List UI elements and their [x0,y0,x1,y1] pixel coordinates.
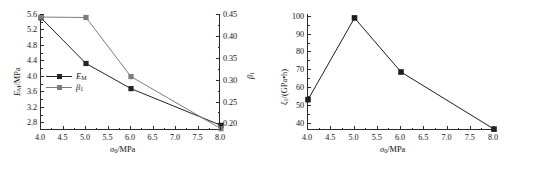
right-panel-x-tick-label: 6.5 [418,133,428,142]
left-panel-x-minor-tick [96,128,97,131]
legend-item-em: EM [46,71,86,82]
left-panel-y-right-tick [216,80,220,81]
right-panel-y-tick-label: 100 [285,11,304,20]
right-panel-plot-frame [307,14,493,130]
right-panel-x-tick [447,126,448,130]
right-panel-x-minor-tick [365,128,366,131]
left-panel-y-right-tick [216,14,220,15]
left-panel-x-tick [108,126,109,130]
left-panel-x-tick-label: 5.5 [103,133,113,142]
left-panel-x-tick [85,126,86,130]
right-panel-x-tick-label: 4.0 [302,133,312,142]
left-panel-y-right-tick-label: 0.45 [223,10,237,19]
right-panel-x-tick [354,126,355,130]
left-panel-x-minor-tick [164,128,165,131]
right-panel-x-tick [377,126,378,130]
left-panel-y-right-tick [216,102,220,103]
right-panel-x-tick-label: 7.0 [442,133,452,142]
left-panel-x-minor-tick [141,128,142,131]
left-panel-y-left-tick [40,107,44,108]
left-panel-y-left-tick-label: 5.6 [17,10,37,19]
right-panel-x-tick-label: 8.0 [488,133,498,142]
left-panel-y-right-tick-label: 0.35 [223,53,237,62]
right-panel-x-minor-tick [388,128,389,131]
left-panel-data-point-1-2 [128,74,133,79]
right-panel-y-minor-tick [307,60,310,61]
left-panel-y-right-minor-tick [218,47,221,48]
left-panel-x-minor-tick [74,128,75,131]
right-panel-series-canvas [308,14,494,130]
left-panel-x-tick [198,126,199,130]
left-panel-data-point-1-0 [38,14,43,19]
right-panel-y-minor-tick [307,43,310,44]
left-panel-x-axis-title: σ0/MPa [110,145,135,154]
left-panel-x-tick [40,126,41,130]
left-panel-x-tick [153,126,154,130]
left-panel-x-minor-tick [119,128,120,131]
right-panel-x-tick [470,126,471,130]
left-panel-x-tick [130,126,131,130]
left-panel-y-right-minor-tick [218,69,221,70]
right-panel-x-tick-label: 5.0 [349,133,359,142]
right-panel-x-tick [423,126,424,130]
right-panel-y-tick-label: 40 [285,118,304,127]
left-panel-y-right-tick [216,58,220,59]
left-panel-y-left-minor-tick [40,99,43,100]
right-panel-x-minor-tick [481,128,482,131]
left-panel-x-tick-label: 7.5 [193,133,203,142]
left-panel-y-left-minor-tick [40,22,43,23]
right-panel-y-minor-tick [307,78,310,79]
left-panel-y-left-minor-tick [40,115,43,116]
legend-marker-square-icon [57,74,62,79]
right-panel-y-tick [307,87,311,88]
left-panel-x-minor-tick [209,128,210,131]
chart-panel-left: EM/MPa β1 σ0/MPa 2.83.23.64.04.44.85.25.… [0,0,267,174]
right-panel-y-minor-tick [307,96,310,97]
right-panel-y-tick [307,51,311,52]
right-panel-y-tick [307,123,311,124]
right-panel-x-tick [307,126,308,130]
right-panel-x-tick [493,126,494,130]
left-panel-y-right-axis-title: β1 [246,72,255,79]
right-panel-x-minor-tick [412,128,413,131]
left-panel-x-minor-tick [51,128,52,131]
left-panel-y-right-tick-label: 0.30 [223,75,237,84]
right-panel-y-minor-tick [307,25,310,26]
left-panel-x-tick-label: 4.5 [58,133,68,142]
left-panel-y-right-tick [216,123,220,124]
left-panel-y-left-tick [40,91,44,92]
right-panel-x-minor-tick [342,128,343,131]
left-panel-y-left-tick [40,45,44,46]
left-panel-y-right-tick-label: 0.25 [223,97,237,106]
right-panel-y-tick-label: 80 [285,47,304,56]
right-panel-y-tick [307,69,311,70]
left-panel-x-tick [175,126,176,130]
right-panel-x-tick-label: 6.0 [395,133,405,142]
left-panel-x-tick-label: 6.5 [148,133,158,142]
right-panel-x-tick-label: 4.5 [325,133,335,142]
left-panel-y-left-tick [40,122,44,123]
left-panel-y-left-minor-tick [40,53,43,54]
right-panel-x-minor-tick [458,128,459,131]
left-panel-y-left-tick [40,14,44,15]
left-panel-y-right-minor-tick [218,112,221,113]
left-panel-x-tick-label: 6.0 [125,133,135,142]
left-panel-y-right-tick-label: 0.20 [223,119,237,128]
right-panel-y-tick-label: 70 [285,65,304,74]
left-panel-x-tick-label: 8.0 [215,133,225,142]
left-panel-data-point-1-1 [83,15,88,20]
left-panel-y-left-tick-label: 3.2 [17,102,37,111]
right-panel-y-minor-tick [307,114,310,115]
right-panel-plot-area [308,14,493,129]
left-panel-y-left-tick [40,60,44,61]
right-panel-y-tick [307,34,311,35]
left-panel-data-point-0-2 [128,86,133,91]
left-panel-x-tick [220,126,221,130]
legend-label: β1 [76,83,83,92]
legend-sample [46,72,72,81]
left-panel-y-left-tick [40,29,44,30]
left-panel-x-tick-label: 5.0 [80,133,90,142]
right-panel-data-point-1 [352,15,358,21]
left-panel-x-tick-label: 7.0 [170,133,180,142]
left-panel-y-left-minor-tick [40,37,43,38]
